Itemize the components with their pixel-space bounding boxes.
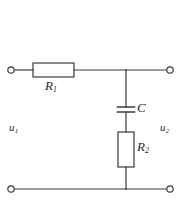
resistor-r1-body <box>33 63 74 77</box>
resistor-r1-label: R1 <box>45 79 57 92</box>
terminal-bottom-right[interactable] <box>167 186 173 192</box>
capacitor-c-symbol: C <box>137 100 146 115</box>
input-voltage-symbol: u <box>9 121 15 133</box>
resistor-r2-label: R2 <box>137 140 149 153</box>
terminal-top-left[interactable] <box>8 67 14 73</box>
output-voltage-subscript: 2 <box>166 127 169 134</box>
resistor-r1-subscript: 1 <box>53 85 57 94</box>
terminal-top-right[interactable] <box>167 67 173 73</box>
input-voltage-subscript: 1 <box>15 127 18 134</box>
output-voltage-label: u2 <box>160 122 169 133</box>
terminal-bottom-left[interactable] <box>8 186 14 192</box>
circuit-diagram: R1 C R2 u1 u2 <box>0 0 184 203</box>
resistor-r1-symbol: R <box>45 78 53 93</box>
resistor-r2-body <box>118 132 134 167</box>
output-voltage-symbol: u <box>160 121 166 133</box>
resistor-r2-symbol: R <box>137 139 145 154</box>
circuit-schematic-svg <box>0 0 184 203</box>
capacitor-c-label: C <box>137 101 146 114</box>
input-voltage-label: u1 <box>9 122 18 133</box>
resistor-r2-subscript: 2 <box>145 146 149 155</box>
